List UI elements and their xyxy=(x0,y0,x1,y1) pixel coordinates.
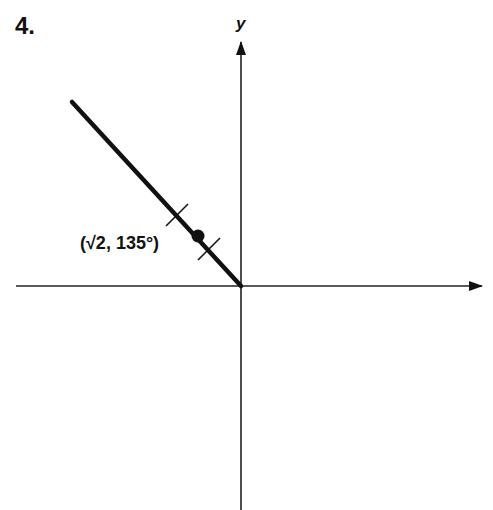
polar-diagram xyxy=(0,0,493,510)
point-label: (√2, 135°) xyxy=(80,233,159,254)
ray-135-deg xyxy=(72,102,241,286)
point-marker xyxy=(192,230,205,243)
